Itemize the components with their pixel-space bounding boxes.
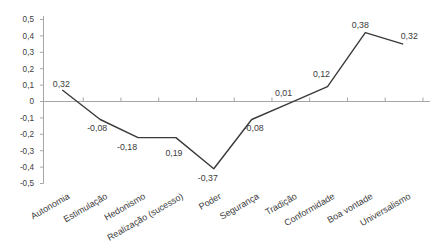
data-point-label: 0,12 [313,69,330,79]
data-point-label: -0,08 [244,123,264,133]
line-chart-figure: 0,50,40,30,20,10-0,1-0,2-0,3-0,4-0,50,32… [0,0,445,251]
data-point-label: -0,37 [198,173,218,183]
y-tick-label: 0 [29,97,34,106]
y-tick-label: -0,5 [20,179,35,188]
y-tick-label: 0,4 [23,32,35,41]
y-tick-label: -0,2 [20,130,35,139]
data-point-label: 0,38 [352,20,369,30]
data-point-label: -0,08 [87,123,107,133]
y-tick-label: 0,1 [23,81,35,90]
data-point-label: 0,32 [401,31,418,41]
data-point-label: 0,01 [275,88,292,98]
data-point-label: -0,18 [117,142,137,152]
y-tick-label: 0,5 [23,15,35,24]
data-point-label: 0,32 [53,79,70,89]
data-point-label: 0,19 [165,148,182,158]
y-tick-label: -0,3 [20,147,35,156]
y-tick-label: 0,2 [23,65,35,74]
y-tick-label: -0,1 [20,114,35,123]
y-tick-label: 0,3 [23,48,35,57]
y-tick-label: -0,4 [20,163,35,172]
line-chart: 0,50,40,30,20,10-0,1-0,2-0,3-0,4-0,50,32… [0,0,445,251]
